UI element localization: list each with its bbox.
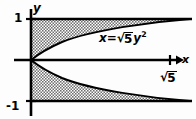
y-tick-label-negative-1: -1 (6, 100, 19, 112)
x-tick-label-sqrt5: √5 (160, 70, 177, 83)
figure-canvas (0, 0, 196, 119)
equation-lhs: x (99, 31, 107, 45)
tick-radicand: 5 (167, 71, 176, 84)
equation-radicand: 5 (124, 32, 133, 45)
x-axis-label: x (182, 54, 189, 65)
sqrt-symbol-tick: √5 (160, 70, 177, 83)
equation-equals: = (107, 31, 117, 45)
sqrt-symbol-equation: √5 (117, 31, 134, 44)
equation-variable: y (133, 31, 141, 45)
equation-exponent: 2 (141, 30, 146, 39)
y-tick-label-1: 1 (14, 12, 22, 24)
math-figure: y x 1 -1 x=√5y2 √5 (0, 0, 196, 119)
curve-equation-label: x=√5y2 (99, 31, 147, 44)
y-axis-label: y (33, 2, 41, 14)
